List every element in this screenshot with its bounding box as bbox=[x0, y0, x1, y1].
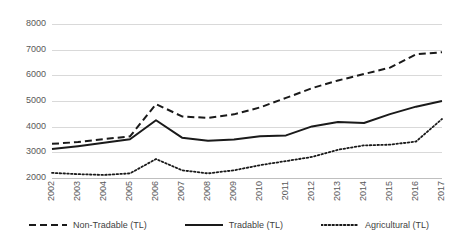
y-axis-tick-label: 7000 bbox=[26, 45, 46, 54]
x-axis-tick-label: 2007 bbox=[177, 181, 186, 201]
x-axis-labels: 2002200320042005200620072008200920102011… bbox=[52, 181, 442, 213]
legend-label: Non-Tradable (TL) bbox=[73, 220, 147, 230]
y-axis-tick-label: 5000 bbox=[26, 96, 46, 105]
x-axis-tick-label: 2016 bbox=[411, 181, 420, 201]
legend-swatch-dashed-icon bbox=[29, 220, 67, 230]
y-axis-tick-label: 8000 bbox=[26, 19, 46, 28]
legend-item[interactable]: Agricultural (TL) bbox=[321, 220, 429, 230]
x-axis-tick-label: 2012 bbox=[307, 181, 316, 201]
x-axis-tick-label: 2002 bbox=[47, 181, 56, 201]
legend-swatch-dotted-icon bbox=[321, 220, 359, 230]
y-axis-tick-label: 6000 bbox=[26, 70, 46, 79]
legend-label: Tradable (TL) bbox=[229, 220, 283, 230]
y-axis-tick-label: 2000 bbox=[26, 173, 46, 182]
x-axis-tick-label: 2008 bbox=[203, 181, 212, 201]
gridline bbox=[52, 178, 442, 179]
legend-item[interactable]: Tradable (TL) bbox=[185, 220, 283, 230]
series-line bbox=[52, 52, 442, 144]
series-layer bbox=[52, 24, 442, 178]
x-axis-tick-label: 2013 bbox=[333, 181, 342, 201]
x-axis-tick-label: 2017 bbox=[437, 181, 446, 201]
legend-label: Agricultural (TL) bbox=[365, 220, 429, 230]
legend-swatch-solid-icon bbox=[185, 220, 223, 230]
series-line bbox=[52, 101, 442, 149]
legend-item[interactable]: Non-Tradable (TL) bbox=[29, 220, 147, 230]
x-axis-tick-label: 2006 bbox=[151, 181, 160, 201]
plot-area bbox=[52, 24, 442, 178]
y-axis-tick-label: 3000 bbox=[26, 147, 46, 156]
series-line bbox=[52, 119, 442, 175]
y-axis-tick-label: 4000 bbox=[26, 122, 46, 131]
x-axis-tick-label: 2005 bbox=[125, 181, 134, 201]
x-axis-tick-label: 2010 bbox=[255, 181, 264, 201]
x-axis-tick-label: 2004 bbox=[99, 181, 108, 201]
line-chart: 2000300040005000600070008000 20022003200… bbox=[0, 0, 458, 245]
x-axis-tick-label: 2003 bbox=[73, 181, 82, 201]
chart-legend: Non-Tradable (TL)Tradable (TL)Agricultur… bbox=[0, 214, 458, 236]
x-axis-tick-label: 2009 bbox=[229, 181, 238, 201]
x-axis-tick-label: 2014 bbox=[359, 181, 368, 201]
x-axis-tick-label: 2011 bbox=[281, 181, 290, 200]
y-axis-labels: 2000300040005000600070008000 bbox=[0, 24, 46, 178]
x-axis-tick-label: 2015 bbox=[385, 181, 394, 201]
